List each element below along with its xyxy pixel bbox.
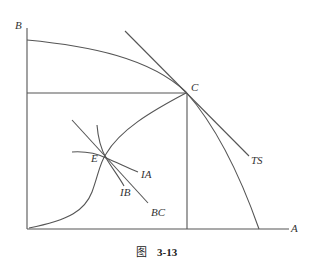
production-possibility-curve xyxy=(27,40,259,229)
ia-label: IA xyxy=(140,168,152,180)
bc-label: BC xyxy=(151,206,166,218)
budget-line-bc xyxy=(72,120,148,203)
ib-label: IB xyxy=(119,186,131,198)
caption-prefix: 图 xyxy=(136,246,147,259)
caption-number: 3-13 xyxy=(157,246,178,258)
y-axis-label: B xyxy=(15,19,22,31)
point-e-label: E xyxy=(90,152,98,164)
ts-label: TS xyxy=(251,154,263,166)
point-c-label: C xyxy=(191,81,199,93)
x-axis-label: A xyxy=(290,222,298,234)
edgeworth-box-diagram: B A C E TS IA IB BC 图 3-13 xyxy=(0,0,316,268)
